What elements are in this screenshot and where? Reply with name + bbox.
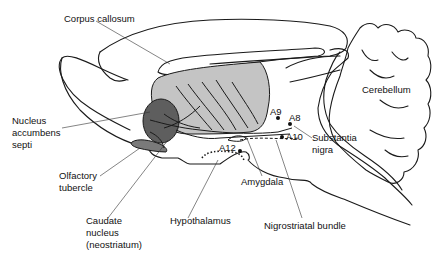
- leader-hypothalamus: [188, 160, 218, 218]
- label-a10: A10: [286, 131, 303, 143]
- label-nigrostriatal-bundle: Nigrostriatal bundle: [264, 220, 346, 232]
- label-nucleus-accumbens-1: Nucleus: [12, 115, 46, 127]
- cerebellum-outline: [329, 24, 431, 184]
- leader-accumbens: [62, 112, 150, 128]
- label-substantia-nigra-2: nigra: [312, 144, 333, 156]
- label-cerebellum: Cerebellum: [362, 84, 411, 96]
- brain-diagram: Corpus callosum Cerebellum Nucleus accum…: [0, 0, 441, 258]
- label-a12: A12: [219, 142, 236, 154]
- label-a9: A9: [270, 106, 282, 118]
- label-olfactory-tubercle-2: tubercle: [59, 182, 93, 194]
- label-corpus-callosum: Corpus callosum: [64, 13, 135, 25]
- label-amygdala: Amygdala: [241, 176, 283, 188]
- a10-dot: [280, 135, 284, 139]
- cortex-outline: [59, 56, 130, 130]
- cortex-inner-fold: [98, 52, 126, 81]
- nucleus-accumbens-region: [143, 99, 179, 143]
- label-nucleus-accumbens-3: septi: [12, 139, 32, 151]
- leader-olfactory: [100, 148, 140, 176]
- label-nucleus-accumbens-2: accumbens: [12, 127, 61, 139]
- leader-caudate: [108, 140, 168, 218]
- label-caudate-2: nucleus: [86, 227, 119, 239]
- label-caudate-1: Caudate: [86, 215, 122, 227]
- leader-amygdala: [246, 136, 262, 176]
- a12-dot: [238, 149, 242, 153]
- leader-corpus-callosum: [96, 21, 170, 64]
- label-a8: A8: [289, 112, 301, 124]
- label-caudate-3: (neostriatum): [86, 239, 142, 251]
- cortex-outer-top: [100, 19, 347, 64]
- label-hypothalamus: Hypothalamus: [170, 215, 231, 227]
- label-olfactory-tubercle-1: Olfactory: [59, 170, 97, 182]
- label-substantia-nigra-1: Substantia: [312, 132, 357, 144]
